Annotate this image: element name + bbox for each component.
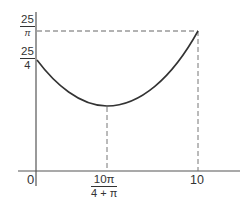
y-tick-25-over-pi: 25 π [20,14,35,39]
y-tick-numerator: 25 [20,46,35,57]
y-tick-denominator: 4 [24,60,30,71]
function-curve [37,31,198,106]
y-tick-25-over-4: 25 4 [20,46,35,71]
x-tick-origin: 0 [27,174,34,186]
y-tick-numerator: 25 [20,14,35,25]
x-tick-denominator: 4 + π [91,188,117,199]
x-tick-minimum: 10π 4 + π [91,174,117,199]
y-tick-denominator: π [24,28,30,39]
fraction-bar [20,26,35,27]
x-tick-ten: 10 [190,174,204,186]
x-tick-numerator: 10π [93,174,116,185]
chart-canvas [0,0,252,202]
